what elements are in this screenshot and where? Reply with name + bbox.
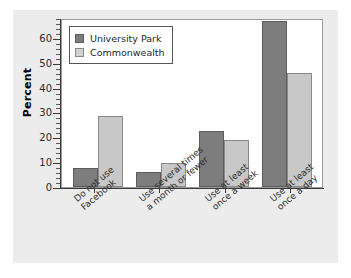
y-tick-label-40: 40 (26, 84, 52, 94)
y-tick-label-20: 20 (26, 133, 52, 143)
y-tick-40 (53, 89, 60, 90)
y-tick-30 (53, 113, 60, 114)
legend-swatch-icon (75, 48, 84, 57)
y-tick-10 (53, 163, 60, 164)
y-tick-label-0: 0 (26, 183, 52, 193)
y-axis-tick-labels: 0102030405060 (18, 0, 52, 278)
chart-legend: University ParkCommonwealth (69, 26, 173, 64)
y-tick-label-30: 30 (26, 108, 52, 118)
y-tick-label-50: 50 (26, 59, 52, 69)
legend-swatch-icon (75, 34, 84, 43)
bar-0-3 (262, 21, 287, 188)
y-tick-60 (53, 39, 60, 40)
legend-label: Commonwealth (90, 47, 165, 58)
y-tick-50 (53, 64, 60, 65)
bar-group (262, 20, 312, 187)
y-tick-label-60: 60 (26, 34, 52, 44)
chart-figure: Percent 0102030405060 Do not useFacebook… (0, 0, 351, 278)
y-tick-label-10: 10 (26, 158, 52, 168)
legend-item-1: Commonwealth (75, 45, 165, 59)
y-tick-20 (53, 138, 60, 139)
legend-item-0: University Park (75, 31, 165, 45)
legend-label: University Park (90, 33, 161, 44)
